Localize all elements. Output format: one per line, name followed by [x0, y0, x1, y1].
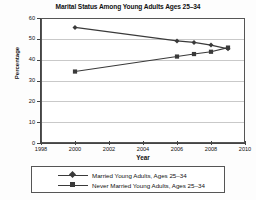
square-marker-icon [58, 181, 88, 190]
y-tick [37, 81, 41, 82]
legend-item-married: Married Young Adults, Ages 25–34 [32, 170, 224, 180]
plot-area [41, 18, 245, 143]
chart-legend: Married Young Adults, Ages 25–34 Never M… [31, 166, 225, 193]
x-tick-label: 2008 [196, 146, 226, 152]
gridline [42, 81, 244, 82]
x-tick [75, 141, 76, 145]
gridline [42, 39, 244, 40]
gridline [42, 122, 244, 123]
gridline [42, 60, 244, 61]
x-tick-label: 2002 [94, 146, 124, 152]
y-tick [37, 18, 41, 19]
y-tick-label: 20 [5, 98, 35, 104]
y-tick-label: 30 [5, 77, 35, 83]
x-tick [245, 141, 246, 145]
chart-title: Marital Status Among Young Adults Ages 2… [0, 3, 256, 10]
chart-figure: Marital Status Among Young Adults Ages 2… [0, 0, 256, 200]
x-tick [177, 141, 178, 145]
x-tick-label: 2000 [60, 146, 90, 152]
x-tick-label: 2004 [128, 146, 158, 152]
y-tick [37, 122, 41, 123]
diamond-marker-icon [58, 171, 88, 180]
y-axis-title: Percentage [14, 33, 20, 93]
legend-label: Married Young Adults, Ages 25–34 [92, 172, 187, 179]
x-tick [109, 141, 110, 145]
legend-item-never-married: Never Married Young Adults, Ages 25–34 [32, 180, 224, 190]
y-tick [37, 39, 41, 40]
y-tick-label: 50 [5, 35, 35, 41]
y-tick-label: 40 [5, 56, 35, 62]
x-tick-label: 2010 [230, 146, 256, 152]
gridline [42, 101, 244, 102]
y-tick-label: 0 [5, 140, 35, 146]
x-tick [211, 141, 212, 145]
x-tick-label: 1998 [26, 146, 56, 152]
legend-label: Never Married Young Adults, Ages 25–34 [92, 182, 205, 189]
x-axis-title: Year [41, 154, 245, 161]
y-tick [37, 101, 41, 102]
y-tick-label: 60 [5, 15, 35, 21]
x-tick [143, 141, 144, 145]
x-tick [41, 141, 42, 145]
x-tick-label: 2006 [162, 146, 192, 152]
y-tick-label: 10 [5, 119, 35, 125]
y-tick [37, 60, 41, 61]
